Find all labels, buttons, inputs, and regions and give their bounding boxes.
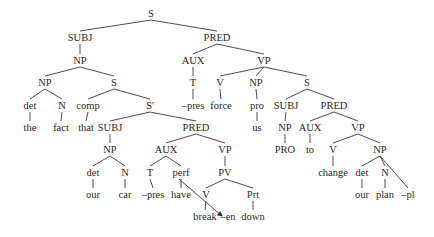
tree-node-label: comp [76, 100, 99, 111]
tree-edge [193, 44, 217, 54]
tree-node-label: AUX [299, 122, 322, 133]
tree-node-label: AUX [155, 144, 178, 155]
tree-node-label: NP [73, 55, 87, 66]
syntax-tree-diagram: SSUBJPREDNPAUXVPNPSTVNPSdetNcompS'–presf… [0, 0, 434, 237]
tree-svg: SSUBJPREDNPAUXVPNPSTVNPSdetNcompS'–presf… [0, 0, 434, 237]
tree-edge [196, 134, 225, 143]
tree-node-label: –pres [181, 100, 205, 111]
tree-edge [362, 156, 380, 166]
tree-edge [110, 156, 125, 166]
tree-node-label: down [241, 211, 265, 222]
tree-node-label: T [190, 77, 197, 88]
tree-edge [88, 89, 114, 99]
tree-edges [30, 20, 408, 210]
tree-node-label: V [329, 144, 337, 155]
tree-node-label: pro [250, 100, 264, 111]
tree-edge [286, 89, 307, 99]
tree-node-label: car [119, 189, 132, 200]
tree-node-label: have [171, 189, 191, 200]
tree-node-label: S [111, 77, 117, 88]
tree-node-label: –en [219, 211, 236, 222]
tree-node-label: VP [351, 122, 365, 133]
tree-node-label: Prt [247, 189, 259, 200]
tree-node-label: NP [249, 77, 263, 88]
tree-node-label: NP [38, 77, 52, 88]
tree-node-label: VP [218, 144, 232, 155]
tree-node-label: break [193, 211, 217, 222]
tree-node-label: VP [257, 55, 271, 66]
tree-node-label: PRED [321, 100, 348, 111]
tree-node-label: det [87, 167, 100, 178]
tree-node-label: N [121, 167, 129, 178]
tree-node-label: V [216, 77, 224, 88]
tree-node-label: det [24, 100, 37, 111]
tree-edge [150, 156, 166, 166]
tree-edge [217, 44, 264, 54]
tree-edge [333, 134, 358, 143]
tree-node-label: PV [218, 167, 232, 178]
tree-node-label: our [86, 189, 101, 200]
tree-node-label: N [58, 100, 66, 111]
tree-node-label: –pres [141, 189, 165, 200]
tree-edge [150, 179, 153, 188]
tree-node-label: that [78, 122, 94, 133]
tree-node-label: AUX [182, 55, 205, 66]
tree-edge [93, 156, 110, 166]
tree-node-label: plan [376, 189, 395, 200]
tree-node-label: S [304, 77, 310, 88]
tree-edge [310, 112, 334, 121]
tree-node-label: fact [53, 122, 69, 133]
tree-edge [61, 112, 62, 121]
tree-node-label: V [202, 189, 210, 200]
tree-edge [151, 20, 217, 31]
tree-node-label: PRO [275, 144, 296, 155]
tree-node-label: the [24, 122, 37, 133]
tree-edge [80, 20, 151, 31]
tree-edge [45, 89, 62, 99]
tree-node-label: NP [373, 144, 387, 155]
tree-edge [256, 89, 257, 99]
tree-node-label: –pl [400, 189, 415, 200]
tree-node-label: us [252, 122, 261, 133]
tree-node-label: PRED [204, 32, 231, 43]
tree-node-label: NP [103, 144, 117, 155]
tree-node-label: to [306, 144, 314, 155]
tree-edge [220, 89, 221, 99]
tree-edge [110, 112, 150, 121]
tree-node-label: det [356, 167, 369, 178]
tree-node-label: SUBJ [98, 122, 123, 133]
tree-edge [166, 134, 196, 143]
tree-nodes: SSUBJPREDNPAUXVPNPSTVNPSdetNcompS'–presf… [24, 8, 415, 222]
tree-edge [334, 112, 358, 121]
tree-edge [86, 112, 88, 121]
tree-node-label: S [148, 8, 154, 19]
tree-edge [264, 67, 307, 76]
tree-edge [358, 134, 380, 143]
tree-edge [225, 179, 253, 188]
tree-edge [166, 156, 181, 166]
tree-node-label: change [318, 167, 348, 178]
tree-edge [45, 67, 80, 76]
tree-node-label: perf [173, 167, 190, 178]
tree-edge [30, 89, 45, 99]
tree-edge [206, 179, 225, 188]
tree-edge [285, 112, 286, 121]
tree-node-label: NP [278, 122, 292, 133]
tree-node-label: T [147, 167, 154, 178]
tree-node-label: SUBJ [274, 100, 299, 111]
tree-node-label: SUBJ [68, 32, 93, 43]
tree-node-label: S' [146, 100, 154, 111]
tree-edge [307, 89, 334, 99]
tree-node-label: force [210, 100, 232, 111]
tree-node-label: our [355, 189, 370, 200]
tree-node-label: N [381, 167, 389, 178]
tree-edge [114, 89, 150, 99]
tree-edge [80, 67, 114, 76]
tree-edge [150, 112, 196, 121]
tree-node-label: PRED [183, 122, 210, 133]
